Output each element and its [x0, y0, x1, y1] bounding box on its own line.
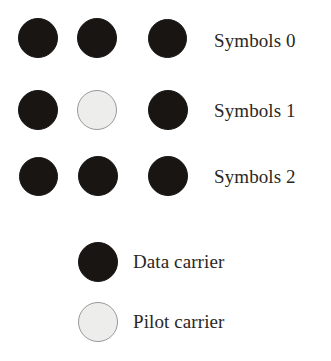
- legend-swatch-data-carrier: [78, 242, 118, 282]
- carrier-allocation-figure: Symbols 0 Symbols 1 Symbols 2 Data carri…: [0, 0, 331, 361]
- row-label-symbols-2: Symbols 2: [214, 167, 296, 186]
- carrier-r2-c0: [19, 157, 58, 196]
- carrier-r1-c1-pilot: [77, 90, 117, 130]
- carrier-r0-c0: [18, 18, 58, 58]
- carrier-r2-c2: [148, 156, 188, 196]
- legend-swatch-pilot-carrier: [78, 302, 118, 342]
- carrier-r2-c1: [78, 156, 118, 196]
- row-label-symbols-1: Symbols 1: [214, 101, 296, 120]
- carrier-r0-c2: [148, 19, 187, 58]
- carrier-r0-c1: [77, 18, 117, 58]
- legend-label-data-carrier: Data carrier: [133, 252, 224, 271]
- legend-label-pilot-carrier: Pilot carrier: [133, 312, 225, 331]
- carrier-r1-c2: [148, 90, 188, 130]
- carrier-r1-c0: [18, 90, 58, 130]
- row-label-symbols-0: Symbols 0: [214, 31, 296, 50]
